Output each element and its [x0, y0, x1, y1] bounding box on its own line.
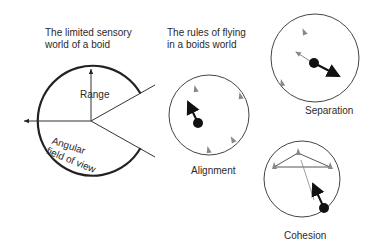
rules-title-line2: in a boids world: [167, 39, 236, 51]
separation-label: Separation: [305, 105, 353, 117]
separation-diagram: [271, 14, 359, 102]
neighbor-boid-icon: [229, 135, 236, 143]
neighbor-boid-icon: [206, 146, 212, 154]
neighbor-boid-icon: [193, 85, 199, 93]
rules-title-line1: The rules of flying: [167, 27, 246, 39]
alignment-diagram: [169, 75, 249, 155]
sensory-title-line1: The limited sensory: [45, 27, 132, 39]
boid-icon: [309, 58, 319, 68]
cohesion-diagram: [264, 141, 340, 217]
range-label: Range: [80, 89, 109, 101]
neighbor-boid-icon: [328, 162, 333, 169]
boid-icon: [319, 203, 329, 213]
boid-icon: [193, 118, 203, 128]
sensory-range-diagram: [24, 66, 155, 176]
neighbor-boid-icon: [301, 27, 308, 35]
sensory-title-line2: world of a boid: [45, 39, 110, 51]
alignment-label: Alignment: [191, 165, 235, 177]
cohesion-label: Cohesion: [284, 230, 326, 242]
neighbor-boid-icon: [296, 148, 301, 155]
